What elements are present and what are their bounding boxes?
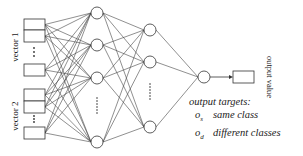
vector-2-label: vector 2 bbox=[10, 101, 20, 130]
input-box bbox=[24, 64, 45, 76]
legend-title: output targets: bbox=[189, 95, 281, 108]
hidden-layer-1 bbox=[91, 7, 103, 148]
input-box bbox=[24, 19, 45, 30]
input-box bbox=[24, 30, 45, 42]
input-box bbox=[24, 127, 45, 139]
input-box bbox=[24, 89, 45, 101]
legend-symbol: od bbox=[195, 126, 213, 144]
output-box bbox=[233, 71, 254, 83]
arrow-head-icon bbox=[229, 75, 233, 79]
legend-item-same: ossame class bbox=[189, 108, 281, 126]
neuron bbox=[91, 136, 103, 148]
neuron bbox=[91, 72, 103, 84]
legend-symbol: os bbox=[195, 108, 213, 126]
legend-description: different classes bbox=[213, 127, 281, 138]
neuron bbox=[144, 121, 156, 133]
neuron bbox=[91, 7, 103, 19]
input-boxes bbox=[24, 19, 45, 139]
hidden-layer-2 bbox=[144, 24, 156, 133]
neuron bbox=[144, 24, 156, 36]
legend: output targets: ossame class oddifferent… bbox=[189, 95, 281, 144]
output-neuron bbox=[198, 71, 210, 83]
input-box bbox=[24, 101, 45, 113]
legend-item-different: oddifferent classes bbox=[189, 126, 281, 144]
neuron bbox=[91, 39, 103, 51]
neuron bbox=[144, 56, 156, 68]
output-value-label: output value bbox=[265, 56, 275, 98]
hidden-layer-2-ellipsis bbox=[149, 83, 151, 100]
connections bbox=[45, 13, 198, 142]
vector-1-label: vector 1 bbox=[10, 32, 20, 61]
hidden-layer-1-ellipsis bbox=[96, 97, 98, 114]
legend-description: same class bbox=[213, 109, 258, 120]
